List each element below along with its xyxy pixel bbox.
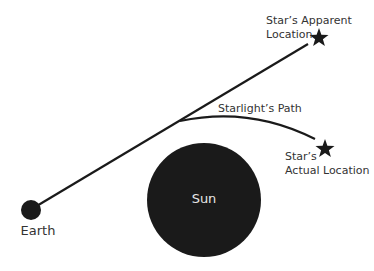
sun-label: Sun xyxy=(192,191,217,206)
starlight-path xyxy=(180,116,315,139)
apparent-label-line2: Location xyxy=(266,28,313,41)
actual-label-line1: Star’s xyxy=(285,150,317,163)
actual-label-line2: Actual Location xyxy=(285,164,370,177)
apparent-label-line1: Star’s Apparent xyxy=(266,14,353,27)
earth-label: Earth xyxy=(21,223,56,238)
lensing-diagram: Sun Earth Star’s Apparent Location Starl… xyxy=(0,0,374,271)
earth xyxy=(21,200,41,220)
path-label: Starlight’s Path xyxy=(218,102,302,115)
actual-star-icon xyxy=(316,139,335,157)
